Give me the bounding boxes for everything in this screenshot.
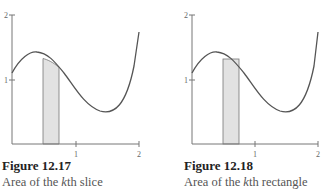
- kth-rectangle: [223, 59, 239, 144]
- figure-12-18: 2 1 1 2 Figure 12.18 Area of the kth rec…: [163, 0, 326, 193]
- figure-number: Figure 12.17: [2, 158, 71, 174]
- function-curve: [192, 32, 318, 112]
- x-tick-1: 1: [74, 150, 78, 159]
- rectangle-plot: 2 1 1 2: [163, 0, 326, 160]
- y-tick-2: 2: [4, 11, 8, 20]
- y-tick-2: 2: [184, 11, 188, 20]
- figure-12-17: 2 1 1 2 Figure 12.17 Area of the kth sli…: [0, 0, 163, 193]
- x-tick-2: 2: [316, 150, 320, 159]
- x-tick-1: 1: [253, 150, 257, 159]
- kth-slice: [43, 59, 59, 145]
- figure-number: Figure 12.18: [184, 158, 253, 174]
- function-curve: [12, 32, 139, 112]
- y-tick-1: 1: [4, 76, 8, 85]
- slice-plot: 2 1 1 2: [0, 0, 163, 160]
- figure-caption: Area of the kth slice: [2, 175, 103, 190]
- figure-caption: Area of the kth rectangle: [184, 175, 308, 190]
- y-tick-1: 1: [184, 76, 188, 85]
- x-tick-2: 2: [137, 150, 141, 159]
